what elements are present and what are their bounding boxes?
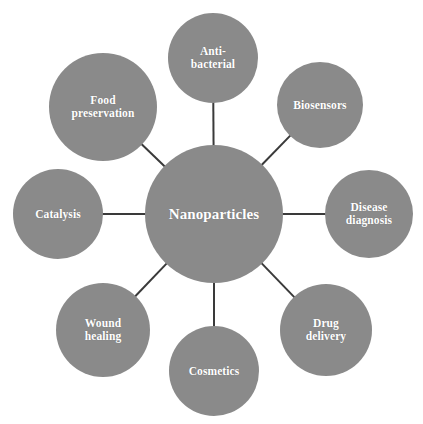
connector-drug-delivery: [261, 263, 295, 298]
connector-biosensors: [261, 135, 290, 165]
node-label-anti-bacterial: Anti- bacterial: [191, 45, 235, 71]
node-cosmetics[interactable]: Cosmetics: [169, 326, 259, 416]
connector-food-preservation: [141, 144, 165, 167]
node-anti-bacterial[interactable]: Anti- bacterial: [168, 13, 258, 103]
node-nanoparticles[interactable]: Nanoparticles: [145, 145, 283, 283]
node-disease-diagnosis[interactable]: Disease diagnosis: [325, 170, 413, 258]
node-label-wound-healing: Wound healing: [85, 317, 122, 343]
node-catalysis[interactable]: Catalysis: [13, 169, 103, 259]
node-biosensors[interactable]: Biosensors: [277, 62, 363, 148]
node-label-catalysis: Catalysis: [35, 208, 81, 221]
node-label-food-preservation: Food preservation: [72, 94, 135, 120]
node-label-disease-diagnosis: Disease diagnosis: [346, 201, 392, 227]
node-label-cosmetics: Cosmetics: [189, 365, 240, 378]
node-food-preservation[interactable]: Food preservation: [49, 53, 157, 161]
nanoparticles-diagram: Nanoparticles Anti- bacterial Biosensors…: [0, 0, 423, 424]
node-wound-healing[interactable]: Wound healing: [56, 283, 150, 377]
node-drug-delivery[interactable]: Drug delivery: [280, 284, 372, 376]
node-label-biosensors: Biosensors: [293, 99, 346, 112]
node-label-drug-delivery: Drug delivery: [306, 317, 346, 343]
node-label-nanoparticles: Nanoparticles: [169, 206, 259, 223]
connector-wound-healing: [135, 263, 167, 297]
